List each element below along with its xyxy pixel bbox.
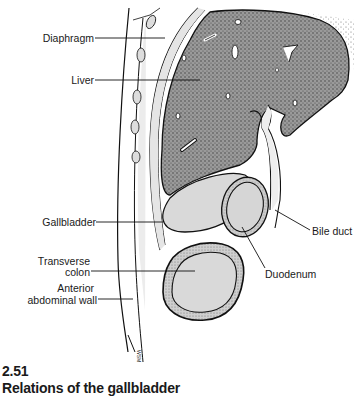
figure-number: 2.51 [2,363,28,379]
transverse-colon [163,243,244,320]
label-bile-duct: Bile duct [312,225,352,237]
liver [161,10,354,195]
artist-signature: WSM [136,350,142,362]
label-liver: Liver [20,74,94,86]
figure-title: Relations of the gallbladder [2,380,180,396]
label-gallbladder: Gallbladder [20,216,96,228]
gallbladder-relations-diagram: WSM [0,0,355,401]
label-anterior-wall-2: abdominal wall [10,294,97,306]
label-transverse-colon-2: colon [20,266,90,278]
label-anterior-wall-1: Anterior [10,282,94,294]
label-duodenum: Duodenum [265,268,316,280]
label-diaphragm: Diaphragm [20,32,94,44]
